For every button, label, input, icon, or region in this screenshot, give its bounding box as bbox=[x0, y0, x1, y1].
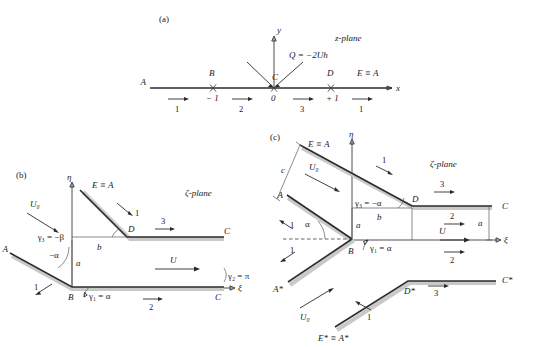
panel-b-angle-gamma3: γ₃ = −β bbox=[37, 232, 65, 242]
panel-b-eta-axis-label: η bbox=[67, 172, 72, 182]
panel-b-U-arrow bbox=[155, 267, 200, 272]
panel-b-upper-wall-band bbox=[83, 192, 224, 239]
panel-b-dimension-b: b bbox=[97, 242, 102, 252]
panel-b-angle-gamma1: γ₁ = α bbox=[88, 291, 111, 301]
panel-c-angle-gamma3: γ₃ = −α bbox=[354, 198, 382, 208]
panel-c-segment-1-mid: 1 bbox=[290, 220, 294, 230]
panel-b-lower-wall bbox=[10, 253, 224, 287]
panel-a-segment-4: 1 bbox=[359, 104, 363, 114]
panel-c-tag: (c) bbox=[270, 132, 280, 142]
panel-c-plane-label: ζ-plane bbox=[430, 159, 457, 169]
panel-c-wall-Astar bbox=[288, 239, 352, 282]
panel-c-lower-wall-band bbox=[337, 283, 496, 330]
panel-b-segment-3: 3 bbox=[161, 216, 165, 226]
panel-b-angle-minus-alpha-arc bbox=[58, 247, 69, 268]
panel-c-point-E: E ≡ A bbox=[307, 139, 330, 149]
panel-c-xi-axis-label: ξ bbox=[504, 235, 508, 245]
panel-c-point-Dstar: D* bbox=[403, 286, 415, 296]
panel-b-xi-axis-label: ξ bbox=[238, 283, 242, 293]
panel-a-tick-zero: 0 bbox=[271, 93, 276, 103]
panel-b-dimension-a: a bbox=[76, 258, 81, 268]
panel-c-segment-3-lower: 3 bbox=[434, 288, 438, 298]
panel-c-U-label: U bbox=[439, 226, 446, 236]
panel-b-U0-arrow bbox=[27, 213, 59, 233]
panel-c-wall-A bbox=[287, 195, 352, 239]
panel-b-point-C-upper: C bbox=[224, 226, 231, 236]
panel-b-tag: (b) bbox=[16, 170, 27, 180]
panel-c-U0-upper-arrow bbox=[305, 174, 340, 192]
figure-svg: (a) z-plane x y Q = −2Uh A B C D E ≡ A bbox=[0, 0, 539, 347]
panel-a-tick-plus1: + 1 bbox=[326, 93, 339, 103]
panel-b-point-A: A bbox=[2, 244, 9, 254]
panel-c-segment-3-upper: 3 bbox=[440, 179, 444, 189]
panel-b-angle-gamma1-arrowhead bbox=[84, 292, 87, 297]
panel-c-point-Astar: A* bbox=[272, 284, 283, 294]
panel-c-eta-axis-label: η bbox=[349, 129, 354, 139]
panel-c-point-Cstar: C* bbox=[502, 275, 513, 285]
panel-b: (b) ζ-plane η ξ a b γ₃ = −β γ₂ = π γ₁ = … bbox=[2, 170, 250, 312]
panel-c-dimension-c: c bbox=[281, 165, 285, 175]
panel-b-point-B: B bbox=[68, 292, 74, 302]
panel-b-point-D: D bbox=[127, 224, 135, 234]
panel-a-point-D: D bbox=[326, 68, 334, 78]
panel-c-dimension-b: b bbox=[377, 212, 382, 222]
panel-b-segment-1: 1 bbox=[135, 208, 139, 218]
panel-b-angle-minus-alpha: −α bbox=[49, 250, 59, 260]
panel-c-angle-alpha: α bbox=[305, 219, 310, 229]
panel-a-point-E: E ≡ A bbox=[356, 68, 379, 78]
panel-a-plane-label: z-plane bbox=[334, 33, 362, 43]
panel-b-segment-1b: 1 bbox=[34, 282, 38, 292]
panel-b-point-C-lower: C bbox=[215, 292, 222, 302]
panel-c-point-D: D bbox=[411, 194, 419, 204]
panel-c-angle-gamma1: γ₁ = α bbox=[369, 243, 392, 253]
panel-a-y-axis-label: y bbox=[276, 25, 281, 35]
panel-c-segment-1-lower: 1 bbox=[367, 312, 371, 322]
panel-c-point-Estar: E* ≡ A* bbox=[317, 333, 349, 343]
panel-a-segment-1: 1 bbox=[175, 104, 179, 114]
panel-b-lower-wall-band bbox=[12, 256, 224, 289]
figure-canvas: (a) z-plane x y Q = −2Uh A B C D E ≡ A bbox=[0, 0, 539, 347]
panel-c-upper-wall bbox=[300, 145, 492, 206]
panel-a-point-B: B bbox=[209, 68, 215, 78]
panel-c-U0-lower-arrow bbox=[300, 288, 334, 308]
panel-a-point-A: A bbox=[140, 77, 147, 87]
panel-b-U-label: U bbox=[170, 255, 177, 265]
panel-c-point-C: C bbox=[502, 201, 509, 211]
panel-c-point-B: B bbox=[348, 246, 354, 256]
panel-b-angle-gamma3-arc bbox=[112, 229, 119, 237]
panel-a: (a) z-plane x y Q = −2Uh A B C D E ≡ A bbox=[140, 14, 401, 114]
panel-b-U0-label: U₀ bbox=[30, 199, 40, 209]
panel-c: (c) ζ-plane η ξ a a b bbox=[270, 129, 513, 343]
panel-b-angle-gamma2: γ₂ = π bbox=[227, 271, 250, 281]
panel-c-U0-lower-label: U₀ bbox=[300, 312, 310, 322]
panel-c-segment-1-upper: 1 bbox=[382, 155, 386, 165]
panel-a-segment-3: 3 bbox=[300, 104, 304, 114]
panel-b-segment-2: 2 bbox=[149, 302, 153, 312]
panel-b-plane-label: ζ-plane bbox=[185, 188, 212, 198]
panel-c-segment-1-midlow: 1 bbox=[290, 245, 294, 255]
panel-c-upper-wall-band bbox=[302, 148, 492, 208]
panel-c-dimension-a-right: a bbox=[478, 218, 483, 228]
panel-c-segment-2-upper: 2 bbox=[450, 211, 454, 221]
panel-c-U-arrow bbox=[440, 238, 470, 243]
panel-a-segment-2: 2 bbox=[239, 104, 243, 114]
panel-c-U0-upper-label: U₀ bbox=[309, 162, 319, 172]
panel-a-x-axis-label: x bbox=[395, 83, 400, 93]
panel-a-tick-minus1: − 1 bbox=[206, 93, 219, 103]
panel-a-point-C: C bbox=[272, 72, 279, 82]
panel-c-point-A: A bbox=[277, 190, 284, 200]
panel-b-angle-gamma2-arc bbox=[224, 268, 226, 282]
panel-a-tag: (a) bbox=[159, 14, 169, 24]
panel-c-wall-A-band bbox=[288, 198, 354, 242]
panel-c-segment-2-lower: 2 bbox=[450, 255, 454, 265]
panel-b-point-E: E ≡ A bbox=[91, 180, 114, 190]
panel-a-source-strength-label: Q = −2Uh bbox=[289, 50, 328, 60]
panel-c-dimension-a-left: a bbox=[356, 220, 361, 230]
panel-c-wall-Astar-band bbox=[290, 240, 354, 285]
